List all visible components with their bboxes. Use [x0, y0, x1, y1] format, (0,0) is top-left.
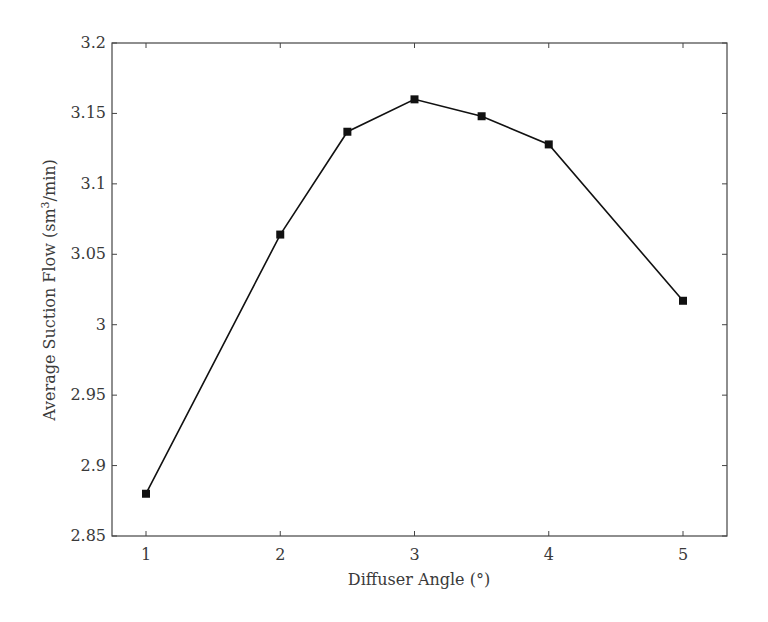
data-point-marker	[679, 297, 687, 305]
y-axis-label: Average Suction Flow (sm3/min)	[39, 159, 60, 422]
data-point-marker	[411, 95, 419, 103]
y-tick-label: 2.85	[70, 526, 106, 545]
x-tick-label: 3	[409, 545, 419, 564]
data-point-marker	[142, 490, 150, 498]
line-chart: 12345 2.852.92.9533.053.13.153.2 Diffuse…	[0, 0, 768, 622]
data-point-marker	[276, 231, 284, 239]
series-line	[146, 99, 683, 493]
y-tick-label: 2.95	[70, 385, 106, 404]
y-tick-label: 3	[96, 315, 106, 334]
y-tick-label: 3.2	[81, 33, 106, 52]
y-axis-label-post: /min)	[40, 159, 59, 201]
data-series	[142, 95, 687, 497]
plot-border	[112, 43, 727, 536]
y-tick-label: 3.05	[70, 244, 106, 263]
x-tick-label: 1	[141, 545, 151, 564]
y-axis: 2.852.92.9533.053.13.153.2	[70, 33, 727, 545]
y-tick-label: 3.1	[81, 174, 106, 193]
data-point-marker	[343, 128, 351, 136]
x-tick-label: 5	[678, 545, 688, 564]
x-tick-label: 2	[275, 545, 285, 564]
y-axis-label-pre: Average Suction Flow (sm	[40, 208, 59, 421]
y-tick-label: 3.15	[70, 103, 106, 122]
x-axis-label: Diffuser Angle (°)	[348, 570, 490, 589]
y-axis-label-sup: 3	[39, 201, 52, 208]
x-tick-label: 4	[544, 545, 554, 564]
y-tick-label: 2.9	[81, 456, 106, 475]
data-point-marker	[545, 140, 553, 148]
data-point-marker	[478, 112, 486, 120]
plot-frame	[112, 43, 727, 536]
x-axis: 12345	[141, 43, 688, 564]
